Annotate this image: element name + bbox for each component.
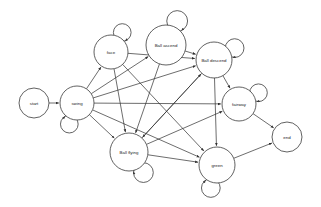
- node-fairway[interactable]: fairway: [222, 87, 256, 121]
- node-start[interactable]: start: [19, 88, 49, 118]
- nodes-layer: startswingfaceBall ascendBall descendfai…: [19, 25, 302, 183]
- node-ball_ascend[interactable]: Ball ascend: [146, 25, 186, 65]
- node-label-ball_flying: Ball flying: [120, 150, 139, 155]
- node-face[interactable]: face: [94, 35, 128, 69]
- edge-ball_flying-to-ball_descend: [142, 74, 201, 138]
- node-label-end: end: [283, 135, 291, 140]
- node-label-swing: swing: [71, 101, 83, 106]
- edge-ball_descend-to-green: [215, 78, 217, 146]
- edge-swing-to-ball_descend: [93, 66, 195, 98]
- node-label-ball_ascend: Ball ascend: [155, 43, 178, 48]
- edge-green-to-end: [234, 143, 272, 158]
- edge-swing-to-fairway: [94, 103, 221, 104]
- edge-fairway-to-end: [253, 114, 274, 128]
- node-end[interactable]: end: [272, 122, 302, 152]
- edge-face-to-ball_flying: [114, 69, 125, 132]
- edge-ball_ascend-to-ball_descend: [185, 51, 196, 54]
- state-graph: startswingfaceBall ascendBall descendfai…: [0, 0, 321, 207]
- edge-ball_flying-to-fairway: [146, 111, 222, 144]
- node-label-green: green: [211, 163, 223, 168]
- node-green[interactable]: green: [199, 147, 235, 183]
- node-label-start: start: [30, 101, 39, 106]
- node-label-ball_descend: Ball descend: [201, 58, 227, 63]
- node-label-fairway: fairway: [232, 102, 247, 107]
- node-ball_descend[interactable]: Ball descend: [196, 42, 232, 78]
- edge-ball_flying-to-green: [148, 155, 198, 162]
- edge-ball_descend-to-fairway: [223, 76, 230, 89]
- edge-swing-to-face: [86, 67, 100, 89]
- node-label-face: face: [107, 50, 116, 55]
- diagram-canvas: startswingfaceBall ascendBall descendfai…: [0, 0, 321, 207]
- node-ball_flying[interactable]: Ball flying: [110, 133, 148, 171]
- node-swing[interactable]: swing: [60, 86, 94, 120]
